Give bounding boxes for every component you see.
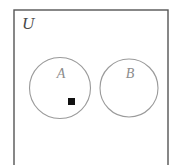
set-a-label: A — [56, 66, 66, 81]
element-point-marker — [68, 98, 75, 105]
venn-diagram-figure: U A B — [0, 0, 175, 165]
venn-diagram-canvas: U A B — [0, 0, 175, 165]
universal-set-label: U — [22, 14, 36, 33]
set-b-label: B — [126, 66, 135, 81]
